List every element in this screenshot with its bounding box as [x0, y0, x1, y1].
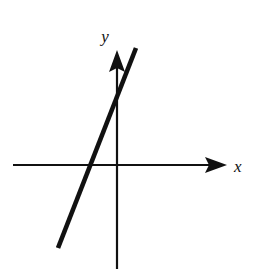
y-axis-label: y — [99, 27, 109, 46]
plotted-line — [58, 48, 136, 248]
cartesian-plot-svg: y x — [0, 0, 260, 269]
graph-figure: y x — [0, 0, 260, 269]
x-axis-label: x — [233, 157, 242, 176]
